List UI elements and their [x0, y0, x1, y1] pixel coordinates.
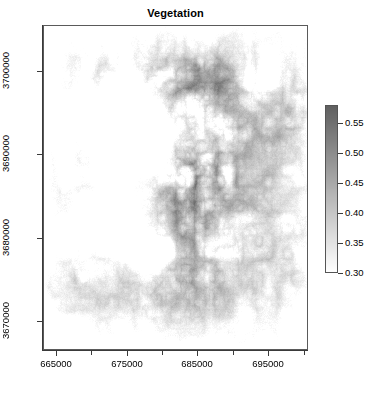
raster-plot-panel — [43, 25, 308, 350]
x-minor-tick — [304, 351, 305, 355]
x-tick-label: 685000 — [167, 358, 227, 369]
y-axis-line — [42, 25, 43, 351]
colorbar-tick-label: 0.40 — [345, 207, 364, 218]
colorbar-tick — [338, 123, 343, 124]
y-tick-label: 3680000 — [0, 214, 11, 262]
colorbar-tick-label: 0.30 — [345, 267, 364, 278]
x-minor-tick — [162, 351, 163, 355]
x-tick-label: 675000 — [97, 358, 157, 369]
colorbar-tick — [338, 153, 343, 154]
y-tick — [37, 321, 42, 322]
y-tick-label: 3670000 — [0, 297, 11, 345]
x-minor-tick — [233, 351, 234, 355]
vegetation-raster-plot: Vegetation 665000675000685000695000 3670… — [0, 0, 379, 396]
y-tick-label: 3700000 — [0, 47, 11, 95]
y-tick — [37, 71, 42, 72]
y-tick — [37, 238, 42, 239]
x-minor-tick — [91, 351, 92, 355]
colorbar-tick-label: 0.45 — [345, 177, 364, 188]
colorbar-tick-label: 0.35 — [345, 237, 364, 248]
x-tick — [127, 351, 128, 356]
raster-image — [44, 26, 307, 349]
x-tick — [56, 351, 57, 356]
y-tick — [37, 154, 42, 155]
x-tick-label: 665000 — [26, 358, 86, 369]
x-tick — [268, 351, 269, 356]
x-tick — [197, 351, 198, 356]
colorbar-tick-label: 0.55 — [345, 117, 364, 128]
colorbar-gradient — [326, 106, 337, 272]
colorbar-tick — [338, 183, 343, 184]
colorbar-tick — [338, 213, 343, 214]
x-tick-label: 695000 — [238, 358, 298, 369]
page-title: Vegetation — [43, 7, 308, 20]
colorbar-tick — [338, 273, 343, 274]
y-tick-label: 3690000 — [0, 130, 11, 178]
colorbar-legend — [325, 105, 338, 273]
colorbar-tick-label: 0.50 — [345, 147, 364, 158]
colorbar-tick — [338, 243, 343, 244]
